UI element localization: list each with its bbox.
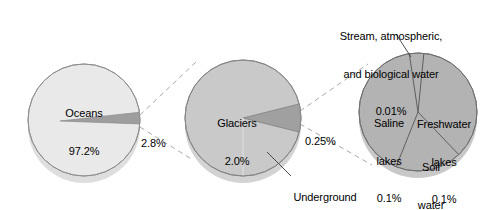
label-oceans: Oceans 97.2% xyxy=(47,82,121,182)
label-glaciers-value: 2.0% xyxy=(200,155,274,168)
water-distribution-figure: Oceans 97.2% 2.8% Glaciers 2.0% 0.25% Un… xyxy=(0,0,500,209)
label-soil-line2: water xyxy=(407,199,455,210)
label-stream-line2: and biological water xyxy=(329,68,453,81)
label-saline-line1: Saline xyxy=(368,117,410,130)
label-saline-value: 0.1% xyxy=(368,192,410,205)
label-saline-lakes: Saline lakes 0.1% xyxy=(368,92,410,209)
label-other-water-value: 2.8% xyxy=(141,137,179,150)
label-glaciers-name: Glaciers xyxy=(200,117,274,130)
label-soil-water: Soil water 0.04% xyxy=(407,136,455,209)
label-stream-line1: Stream, atmospheric, xyxy=(329,30,453,43)
label-glaciers: Glaciers 2.0% xyxy=(200,92,274,192)
label-saline-line2: lakes xyxy=(368,155,410,168)
label-oceans-value: 97.2% xyxy=(47,145,121,158)
label-other-water: 2.8% xyxy=(141,112,179,175)
label-underground-water: Underground water 0.5% xyxy=(288,166,362,209)
label-freshwater-line1: Freshwater xyxy=(413,118,475,131)
label-underground-line1: Underground xyxy=(288,191,362,204)
label-soil-line1: Soil xyxy=(407,161,455,174)
label-oceans-name: Oceans xyxy=(47,107,121,120)
